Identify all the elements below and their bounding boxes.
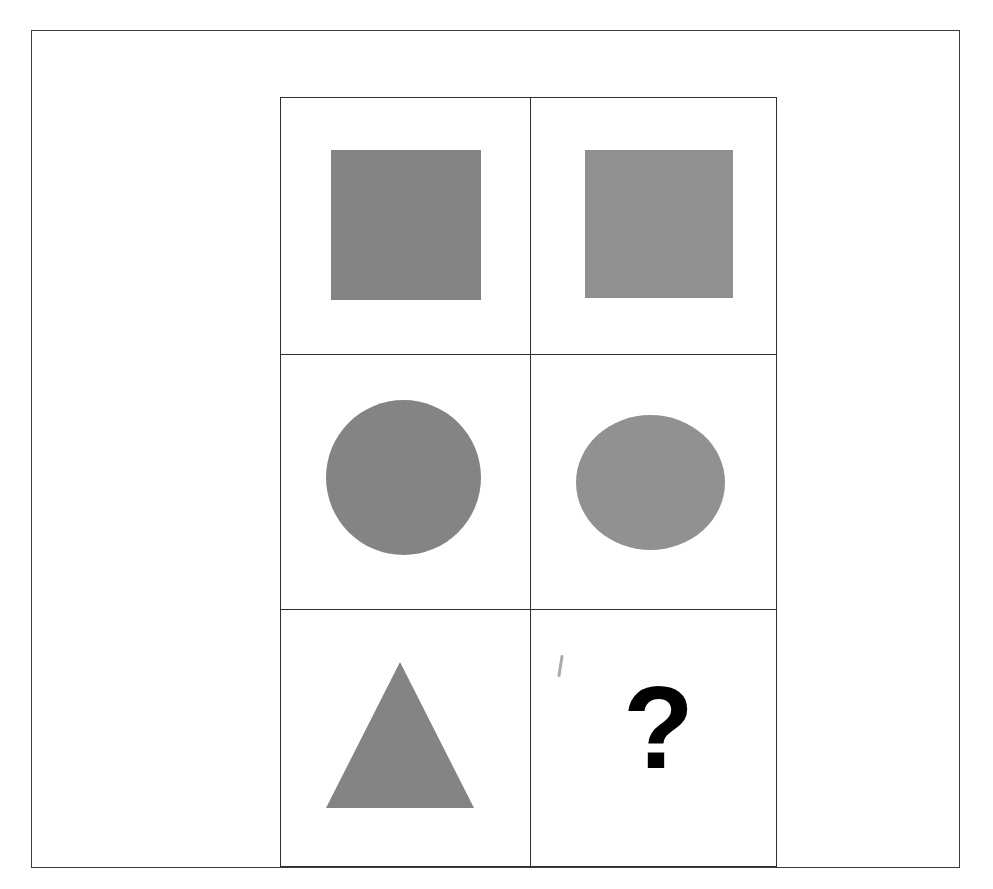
matrix-cell-row1-col2[interactable]	[531, 98, 776, 355]
gray-circle-dark-icon	[326, 400, 481, 555]
matrix-cell-row3-col2-answer[interactable]: ?	[531, 610, 776, 866]
question-mark-glyph: ?	[623, 670, 694, 786]
matrix-cell-row3-col1[interactable]	[281, 610, 531, 866]
gray-square-dark-icon	[331, 150, 481, 300]
gray-triangle-dark-icon	[326, 662, 474, 808]
matrix-cell-row2-col2[interactable]	[531, 355, 776, 610]
matrix-cell-row2-col1[interactable]	[281, 355, 531, 610]
scan-artifact-mark	[557, 655, 563, 677]
gray-circle-light-icon	[576, 415, 725, 550]
shape-matrix-grid: ?	[280, 97, 777, 867]
gray-square-light-icon	[585, 150, 733, 298]
matrix-cell-row1-col1[interactable]	[281, 98, 531, 355]
page-canvas: ?	[0, 0, 993, 889]
outer-frame: ?	[31, 30, 960, 868]
